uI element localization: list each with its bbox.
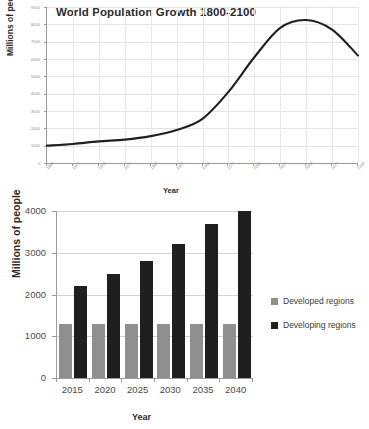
bar-2020-developing bbox=[107, 274, 120, 378]
regions-population-bar-chart: Millions of people Year 0100020003000400… bbox=[0, 196, 369, 429]
world-population-line-chart: World Population Growth 1800-2100 Millio… bbox=[0, 0, 369, 196]
bar-2025-developing bbox=[140, 261, 153, 378]
x-tick-mark bbox=[121, 378, 122, 382]
x-tick-mark bbox=[56, 378, 57, 382]
bar-2025-developed bbox=[125, 324, 138, 378]
bar-2015-developing bbox=[74, 286, 87, 378]
bar-2035-developing bbox=[205, 224, 218, 378]
legend-item-developing: Developing regions bbox=[271, 320, 356, 330]
y-tick-label: 8000 bbox=[14, 22, 40, 27]
x-tick-label: 2030 bbox=[153, 384, 187, 395]
legend-item-developed: Developed regions bbox=[271, 296, 356, 306]
bottom-chart-legend: Developed regionsDeveloping regions bbox=[271, 296, 356, 344]
top-chart-x-axis-label: Year bbox=[163, 186, 179, 195]
bar-2015-developed bbox=[59, 324, 72, 378]
x-tick-label: 2020 bbox=[88, 384, 122, 395]
x-tick-mark bbox=[89, 378, 90, 382]
y-tick-label: 1000 bbox=[12, 331, 46, 341]
top-chart-plot-area bbox=[46, 7, 358, 164]
y-tick-label: 0 bbox=[14, 161, 40, 166]
y-tick-label: 4000 bbox=[14, 91, 40, 96]
x-tick-label: 2015 bbox=[55, 384, 89, 395]
y-tick-label: 7000 bbox=[14, 39, 40, 44]
legend-swatch-icon bbox=[271, 298, 278, 305]
y-tick-label: 9000 bbox=[14, 5, 40, 10]
gridline bbox=[57, 253, 253, 254]
bar-2040-developing bbox=[238, 211, 251, 378]
y-tick-label: 2000 bbox=[14, 126, 40, 131]
bottom-chart-plot-area bbox=[56, 211, 253, 379]
legend-label: Developed regions bbox=[283, 296, 354, 306]
bar-2030-developing bbox=[172, 244, 185, 378]
gridline bbox=[358, 7, 359, 163]
population-curve bbox=[47, 7, 358, 163]
x-tick-mark bbox=[252, 378, 253, 382]
legend-swatch-icon bbox=[271, 322, 278, 329]
y-tick-label: 0 bbox=[12, 373, 46, 383]
y-tick-label: 3000 bbox=[14, 109, 40, 114]
bottom-chart-y-axis-label: Millions of people bbox=[10, 189, 22, 278]
bottom-chart-x-axis-label: Year bbox=[132, 412, 151, 422]
bar-2020-developed bbox=[92, 324, 105, 378]
x-tick-label: 2025 bbox=[121, 384, 155, 395]
bar-2040-developed bbox=[223, 324, 236, 378]
gridline bbox=[57, 211, 253, 212]
y-tick-label: 6000 bbox=[14, 57, 40, 62]
y-tick-label: 4000 bbox=[12, 206, 46, 216]
y-tick-label: 3000 bbox=[12, 248, 46, 258]
x-tick-mark bbox=[219, 378, 220, 382]
y-tick-label: 2000 bbox=[12, 290, 46, 300]
x-tick-label: 2035 bbox=[186, 384, 220, 395]
bar-2035-developed bbox=[190, 324, 203, 378]
x-tick-mark bbox=[187, 378, 188, 382]
x-tick-mark bbox=[154, 378, 155, 382]
bar-2030-developed bbox=[157, 324, 170, 378]
y-tick-label: 1000 bbox=[14, 143, 40, 148]
x-tick-label: 2040 bbox=[219, 384, 253, 395]
legend-label: Developing regions bbox=[283, 320, 356, 330]
y-tick-label: 5000 bbox=[14, 74, 40, 79]
